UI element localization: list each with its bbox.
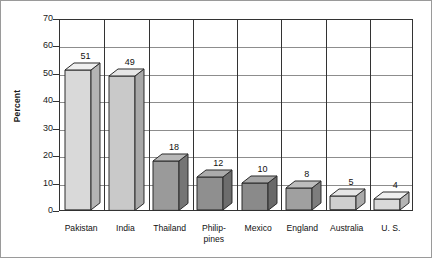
- bar-front-face: [65, 70, 91, 210]
- y-axis-tick-20: 20: [31, 151, 53, 160]
- y-axis-tickmark: [53, 101, 59, 102]
- bar-3d-shape: [329, 188, 366, 211]
- x-axis-label-7: U. S.: [369, 223, 413, 234]
- bar-3d-shape: [373, 191, 410, 211]
- x-axis-label-5: England: [280, 223, 324, 234]
- bar-pakistan: [64, 19, 99, 211]
- y-axis-tickmark: [53, 156, 59, 157]
- x-axis-label-line: Australia: [325, 223, 369, 234]
- bar-india: [108, 19, 143, 211]
- y-axis-tick-labels: 706050403020100: [27, 1, 53, 258]
- y-axis-tick-0: 0: [31, 206, 53, 215]
- bar-front-face: [153, 161, 179, 210]
- y-axis-tick-50: 50: [31, 69, 53, 78]
- bar-value-label: 8: [287, 170, 327, 179]
- bar-front-face: [109, 76, 135, 210]
- x-axis-label-line: Mexico: [236, 223, 280, 234]
- x-axis-label-line: Thailand: [148, 223, 192, 234]
- bar-side-face: [135, 69, 144, 210]
- x-axis-label-line: India: [103, 223, 147, 234]
- bar-mexico: [241, 19, 276, 211]
- x-axis-label-2: Thailand: [148, 223, 192, 234]
- bar-front-face: [330, 196, 356, 210]
- y-axis-tickmark: [53, 46, 59, 47]
- bar-value-label: 4: [375, 181, 415, 190]
- bar-side-face: [179, 154, 188, 210]
- chart-container: Percent 706050403020100 5149181210854 Pa…: [0, 0, 432, 258]
- bar-thailand: [152, 19, 187, 211]
- x-axis-label-line: pines: [192, 234, 236, 245]
- bar-value-label: 51: [66, 52, 106, 61]
- bar-3d-shape: [196, 169, 233, 211]
- y-axis-tickmark: [53, 211, 59, 212]
- bar-front-face: [242, 183, 268, 210]
- y-axis-tickmark: [53, 184, 59, 185]
- bar-front-face: [197, 177, 223, 210]
- y-axis-title: Percent: [12, 76, 22, 136]
- bar-value-label: 18: [154, 143, 194, 152]
- bar-side-face: [91, 63, 100, 210]
- bar-value-label: 5: [331, 178, 371, 187]
- bar-england: [285, 19, 320, 211]
- bar-3d-shape: [108, 68, 145, 211]
- bar-front-face: [374, 199, 400, 210]
- bar-value-label: 10: [243, 165, 283, 174]
- bar-front-face: [286, 188, 312, 210]
- x-axis-label-6: Australia: [325, 223, 369, 234]
- x-axis-label-3: Philip-pines: [192, 223, 236, 244]
- x-axis-label-line: England: [280, 223, 324, 234]
- y-axis-tick-40: 40: [31, 96, 53, 105]
- y-axis-tick-60: 60: [31, 41, 53, 50]
- x-axis-label-1: India: [103, 223, 147, 234]
- bar-series: 5149181210854: [59, 19, 413, 211]
- bar-3d-shape: [64, 62, 101, 211]
- x-axis-category-labels: PakistanIndiaThailandPhilip-pinesMexicoE…: [59, 223, 413, 255]
- y-axis-tickmark: [53, 129, 59, 130]
- x-axis-label-4: Mexico: [236, 223, 280, 234]
- bar-value-label: 12: [198, 159, 238, 168]
- bar-3d-shape: [152, 153, 189, 211]
- bar-value-label: 49: [110, 58, 150, 67]
- x-axis-label-0: Pakistan: [59, 223, 103, 234]
- y-axis-tick-70: 70: [31, 14, 53, 23]
- y-axis-tickmark: [53, 19, 59, 20]
- y-axis-tickmark: [53, 74, 59, 75]
- bar-3d-shape: [241, 175, 278, 211]
- y-axis-tick-30: 30: [31, 124, 53, 133]
- y-axis-tick-10: 10: [31, 179, 53, 188]
- bar-3d-shape: [285, 180, 322, 211]
- x-axis-label-line: Philip-: [192, 223, 236, 234]
- x-axis-label-line: U. S.: [369, 223, 413, 234]
- x-axis-label-line: Pakistan: [59, 223, 103, 234]
- bar-philip-pines: [196, 19, 231, 211]
